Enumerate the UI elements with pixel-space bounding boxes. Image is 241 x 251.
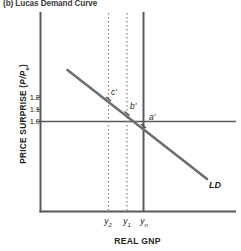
plot-area: [0, 0, 241, 251]
lucas-demand-curve-figure: (b) Lucas Demand Curve PRICE SURPRISE (P…: [0, 0, 241, 251]
lucas-demand-curve-line: [68, 70, 208, 179]
